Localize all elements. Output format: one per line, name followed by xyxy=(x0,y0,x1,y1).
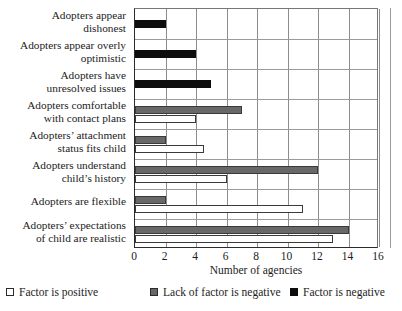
bar xyxy=(135,20,166,28)
row-separator xyxy=(135,159,377,160)
gridline-12 xyxy=(318,9,319,247)
legend-label: Factor is negative xyxy=(303,286,385,298)
bar xyxy=(135,205,303,213)
x-tick-10: 10 xyxy=(275,250,299,262)
legend-swatch-negative xyxy=(290,288,298,296)
gridline-14 xyxy=(349,9,350,247)
bar xyxy=(135,115,196,123)
category-label-line: Adopters appear overly xyxy=(0,39,126,52)
category-label-line: of child are realistic xyxy=(0,232,126,245)
bar xyxy=(135,175,227,183)
bar xyxy=(135,50,196,58)
x-axis-title: Number of agencies xyxy=(134,264,378,276)
bar-chart: Adopters appeardishonestAdopters appear … xyxy=(0,0,402,311)
category-label: Adopters are flexible xyxy=(0,195,126,208)
legend-label: Lack of factor is negative xyxy=(163,286,281,298)
category-label-line: status fits child xyxy=(0,142,126,155)
category-label: Adopters’ expectationsof child are reali… xyxy=(0,219,126,245)
row-separator xyxy=(135,99,377,100)
bar xyxy=(135,235,333,243)
chart-legend: Factor is positiveLack of factor is nega… xyxy=(6,286,398,304)
legend-swatch-lack xyxy=(150,288,158,296)
category-label: Adopters haveunresolved issues xyxy=(0,69,126,95)
category-label-line: Adopters’ attachment xyxy=(0,129,126,142)
x-tick-14: 14 xyxy=(336,250,360,262)
plot-area xyxy=(134,8,378,248)
category-label-line: optimistic xyxy=(0,52,126,65)
category-label-line: dishonest xyxy=(0,22,126,35)
x-tick-12: 12 xyxy=(305,250,329,262)
category-label-line: Adopters appear xyxy=(0,9,126,22)
category-label-line: Adopters are flexible xyxy=(0,195,126,208)
x-tick-4: 4 xyxy=(183,250,207,262)
category-label-line: child’s history xyxy=(0,172,126,185)
legend-label: Factor is positive xyxy=(19,286,98,298)
legend-item-positive: Factor is positive xyxy=(6,286,98,298)
category-label-line: Adopters have xyxy=(0,69,126,82)
bar xyxy=(135,166,318,174)
bar xyxy=(135,106,242,114)
bar xyxy=(135,145,204,153)
x-tick-2: 2 xyxy=(153,250,177,262)
x-tick-8: 8 xyxy=(244,250,268,262)
gridline-16 xyxy=(379,9,380,247)
row-separator xyxy=(135,219,377,220)
category-label: Adopters appear overlyoptimistic xyxy=(0,39,126,65)
row-separator xyxy=(135,189,377,190)
x-tick-0: 0 xyxy=(122,250,146,262)
category-label: Adopters understandchild’s history xyxy=(0,159,126,185)
category-label: Adopters comfortablewith contact plans xyxy=(0,99,126,125)
category-label-line: Adopters comfortable xyxy=(0,99,126,112)
category-label-line: unresolved issues xyxy=(0,82,126,95)
bar xyxy=(135,136,166,144)
row-separator xyxy=(135,69,377,70)
category-axis-labels: Adopters appeardishonestAdopters appear … xyxy=(0,8,130,248)
legend-item-negative: Factor is negative xyxy=(290,286,385,298)
bar xyxy=(135,80,211,88)
row-separator xyxy=(135,129,377,130)
category-label-line: Adopters understand xyxy=(0,159,126,172)
category-label: Adopters’ attachmentstatus fits child xyxy=(0,129,126,155)
category-label-line: with contact plans xyxy=(0,112,126,125)
legend-item-lack: Lack of factor is negative xyxy=(150,286,281,298)
outer-right-rule xyxy=(390,8,391,248)
bar xyxy=(135,226,349,234)
category-label: Adopters appeardishonest xyxy=(0,9,126,35)
legend-swatch-positive xyxy=(6,288,14,296)
x-tick-6: 6 xyxy=(214,250,238,262)
bar xyxy=(135,196,166,204)
row-separator xyxy=(135,39,377,40)
category-label-line: Adopters’ expectations xyxy=(0,219,126,232)
x-tick-16: 16 xyxy=(366,250,390,262)
